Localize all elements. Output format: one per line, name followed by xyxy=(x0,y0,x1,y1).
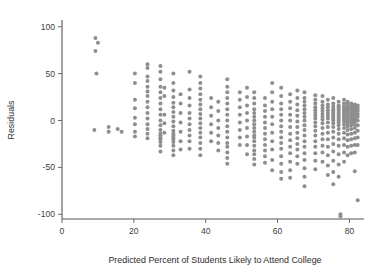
data-point xyxy=(288,168,292,172)
data-point xyxy=(107,125,111,129)
data-point xyxy=(279,102,283,106)
data-point xyxy=(188,117,192,121)
data-point xyxy=(326,164,330,168)
data-point xyxy=(263,154,267,158)
data-point xyxy=(171,124,175,128)
data-point xyxy=(270,100,274,104)
data-point xyxy=(346,133,350,137)
data-point xyxy=(346,128,350,132)
data-point xyxy=(288,176,292,180)
data-point xyxy=(216,126,220,130)
data-point xyxy=(133,72,137,76)
data-point xyxy=(342,136,346,140)
data-point xyxy=(349,137,353,141)
data-point xyxy=(209,139,213,143)
data-point xyxy=(225,162,229,166)
data-point xyxy=(342,98,346,102)
data-point xyxy=(279,86,283,90)
data-point xyxy=(279,124,283,128)
data-point xyxy=(238,90,242,94)
data-point xyxy=(146,85,150,89)
data-point xyxy=(225,145,229,149)
data-point xyxy=(245,86,249,90)
data-point xyxy=(171,88,175,92)
data-point xyxy=(303,166,307,170)
data-point xyxy=(171,81,175,85)
data-point xyxy=(279,162,283,166)
data-point xyxy=(179,120,183,124)
data-point xyxy=(198,126,202,130)
data-point xyxy=(295,131,299,135)
data-point xyxy=(198,117,202,121)
data-point xyxy=(238,113,242,117)
data-point xyxy=(158,96,162,100)
data-point xyxy=(303,151,307,155)
data-point xyxy=(179,148,183,152)
data-point xyxy=(158,102,162,106)
data-point xyxy=(198,141,202,145)
data-point xyxy=(198,121,202,125)
data-point xyxy=(158,149,162,153)
data-point xyxy=(238,105,242,109)
data-point xyxy=(337,123,341,127)
data-point xyxy=(313,93,317,97)
data-point xyxy=(313,98,317,102)
data-point xyxy=(146,100,150,104)
data-point xyxy=(171,110,175,114)
data-point xyxy=(225,156,229,160)
data-point xyxy=(158,107,162,111)
data-point xyxy=(353,169,357,173)
data-point xyxy=(198,92,202,96)
data-point xyxy=(356,135,360,139)
data-point xyxy=(107,130,111,134)
data-point xyxy=(295,103,299,107)
data-point xyxy=(342,150,346,154)
data-point xyxy=(270,115,274,119)
data-point xyxy=(171,95,175,99)
y-tick-label: 100 xyxy=(41,22,56,32)
data-point xyxy=(320,144,324,148)
y-axis-ticks: 100500-50-100 xyxy=(38,22,62,220)
data-point xyxy=(331,135,335,139)
data-point xyxy=(245,95,249,99)
data-point xyxy=(225,119,229,123)
data-point xyxy=(94,72,98,76)
data-point xyxy=(313,151,317,155)
data-point xyxy=(356,123,360,127)
data-point xyxy=(263,115,267,119)
data-point xyxy=(162,113,166,117)
data-point xyxy=(320,132,324,136)
data-point xyxy=(225,102,229,106)
data-point xyxy=(245,119,249,123)
data-point xyxy=(263,143,267,147)
data-point xyxy=(295,96,299,100)
data-point xyxy=(252,102,256,106)
data-point xyxy=(146,127,150,131)
data-point xyxy=(263,103,267,107)
data-point xyxy=(313,139,317,143)
data-point xyxy=(171,140,175,144)
scatter-plot-canvas: 100500-50-100 020406080 Residuals Predic… xyxy=(0,0,376,274)
data-point xyxy=(252,122,256,126)
residual-plot-figure: 100500-50-100 020406080 Residuals Predic… xyxy=(0,0,376,274)
y-tick-label: 0 xyxy=(50,116,55,126)
data-point xyxy=(337,132,341,136)
data-point xyxy=(225,85,229,89)
data-point xyxy=(349,144,353,148)
data-point xyxy=(353,150,357,154)
data-point xyxy=(337,100,341,104)
data-point xyxy=(238,120,242,124)
data-point xyxy=(146,132,150,136)
data-point xyxy=(238,128,242,132)
data-point xyxy=(92,128,96,132)
data-point xyxy=(158,113,162,117)
data-point xyxy=(171,149,175,153)
data-point xyxy=(133,106,137,110)
data-point xyxy=(158,90,162,94)
data-point xyxy=(349,151,353,155)
data-point xyxy=(331,96,335,100)
data-point xyxy=(303,100,307,104)
data-point xyxy=(188,122,192,126)
data-point xyxy=(279,130,283,134)
data-point xyxy=(171,105,175,109)
